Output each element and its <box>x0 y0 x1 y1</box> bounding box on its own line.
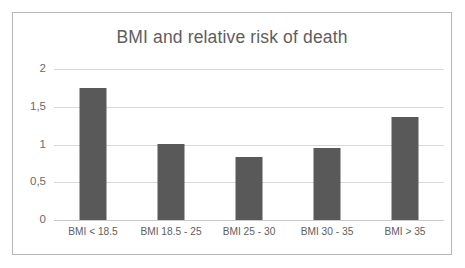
x-tick-label: BMI > 35 <box>366 225 444 239</box>
bar[interactable] <box>80 88 107 220</box>
x-tick-label: BMI 30 - 35 <box>288 225 366 239</box>
gridline-0 <box>54 220 444 221</box>
y-tick-label: 1 <box>40 139 46 151</box>
bar-series <box>54 69 444 220</box>
bar-slot <box>366 69 444 220</box>
bar[interactable] <box>236 157 263 220</box>
x-tick-label: BMI < 18.5 <box>54 225 132 239</box>
x-tick-label: BMI 25 - 30 <box>210 225 288 239</box>
y-tick-label: 2 <box>40 63 46 75</box>
chart-title: BMI and relative risk of death <box>13 27 451 48</box>
bar[interactable] <box>392 117 419 220</box>
y-tick-label: 1,5 <box>30 101 46 113</box>
bar[interactable] <box>158 144 185 220</box>
bar-slot <box>54 69 132 220</box>
y-tick-label: 0,5 <box>30 177 46 189</box>
bar-slot <box>288 69 366 220</box>
y-tick-label: 0 <box>40 214 46 226</box>
x-axis-tick-labels: BMI < 18.5BMI 18.5 - 25BMI 25 - 30BMI 30… <box>54 225 444 243</box>
bar-slot <box>132 69 210 220</box>
bar-slot <box>210 69 288 220</box>
x-tick-label: BMI 18.5 - 25 <box>132 225 210 239</box>
bar[interactable] <box>314 148 341 220</box>
plot-area: 00,511,52 <box>54 69 444 220</box>
chart-frame: BMI and relative risk of death 00,511,52… <box>12 12 452 255</box>
